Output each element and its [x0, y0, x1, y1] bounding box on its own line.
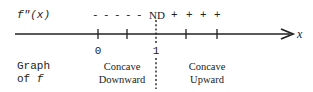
plus-sign: +: [200, 10, 207, 21]
interval-1-line1: Concave: [104, 62, 141, 73]
minus-sign: -: [136, 10, 143, 21]
second-derivative-label: f"(x): [17, 10, 50, 21]
plus-sign: +: [171, 10, 178, 21]
graph-row-label-prefix: of: [17, 73, 37, 85]
tick-label-1: 1: [153, 46, 160, 57]
function-name: f: [37, 73, 44, 85]
graph-row-label-line1: Graph: [17, 61, 50, 72]
interval-2-line2: Upward: [190, 75, 224, 86]
tick-label-0: 0: [95, 46, 102, 57]
minus-sign: -: [114, 10, 121, 21]
graph-row-label-line2: of f: [17, 74, 43, 85]
not-defined-label: ND: [149, 10, 165, 21]
axis-variable-label: x: [297, 28, 302, 40]
interval-1-line2: Downward: [99, 75, 146, 86]
concavity-sign-chart: f"(x) - - - - - ND + + + + x 0 1 Graph o…: [0, 0, 313, 92]
plus-sign: +: [186, 10, 193, 21]
minus-sign: -: [103, 10, 110, 21]
plus-sign: +: [214, 10, 221, 21]
minus-sign: -: [92, 10, 99, 21]
interval-2-line1: Concave: [189, 62, 226, 73]
minus-sign: -: [125, 10, 132, 21]
